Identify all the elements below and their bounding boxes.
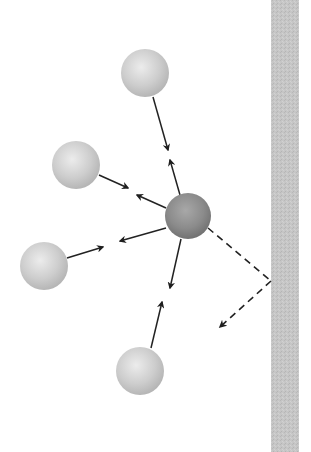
central-molecule [165,193,211,239]
incoming-dashed-line [208,228,271,281]
molecules [20,49,169,395]
arrow-center-to-top-icon [170,160,180,195]
arrow-top-to-center-icon [153,97,168,150]
molecule-left [20,242,68,290]
arrow-center-to-upperleft-icon [137,195,166,208]
molecule-upper-left [52,141,100,189]
central-molecule-sphere [165,193,211,239]
arrow-left-to-center-icon [67,247,103,258]
reflected-dashed-arrow [220,281,271,327]
arrow-upperleft-to-center-icon [99,175,128,188]
molecule-top [121,49,169,97]
wall [271,0,299,452]
molecule-collision-diagram [0,0,311,452]
collision-arrows [67,97,181,348]
reflection-path [208,228,271,327]
arrow-center-to-left-icon [120,228,166,241]
arrow-center-to-bottom-icon [170,239,181,288]
arrow-bottom-to-center-icon [151,302,162,348]
molecule-bottom [116,347,164,395]
wall-surface [271,0,299,452]
